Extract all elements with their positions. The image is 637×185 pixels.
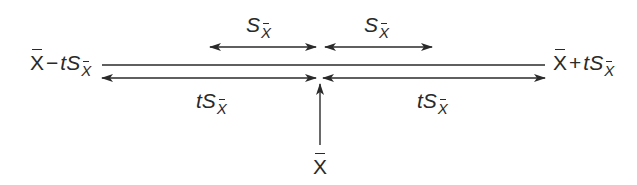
s-symbol: S <box>364 13 378 36</box>
subscript-x: X <box>261 25 271 40</box>
mean-symbol: X <box>553 52 567 73</box>
plus-operator: + <box>569 51 581 74</box>
s-symbol: S <box>66 51 80 74</box>
subscript-x: X <box>81 63 91 78</box>
right-bound-label: X+tSX <box>553 52 614 73</box>
s-symbol: S <box>246 13 260 36</box>
s-symbol: S <box>423 89 437 112</box>
mean-symbol: X <box>313 156 327 177</box>
left-bound-label: X−tSX <box>30 52 91 73</box>
subscript-x: X <box>217 101 227 116</box>
minus-operator: − <box>46 51 58 74</box>
s-label-right: SX <box>364 14 389 35</box>
subscript-x: X <box>379 25 389 40</box>
ts-label-right: tSX <box>417 90 448 111</box>
subscript-x: X <box>604 63 614 78</box>
mean-label: X <box>313 156 327 177</box>
s-symbol: S <box>202 89 216 112</box>
subscript-x: X <box>438 101 448 116</box>
s-symbol: S <box>589 51 603 74</box>
s-label-left: SX <box>246 14 271 35</box>
ts-label-left: tSX <box>196 90 227 111</box>
mean-symbol: X <box>30 52 44 73</box>
